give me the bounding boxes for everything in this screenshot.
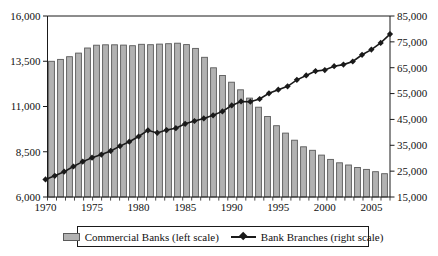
bar-2003 xyxy=(346,165,352,197)
bar-1997 xyxy=(292,140,298,197)
y-left-tick-label: 16,000 xyxy=(10,10,41,22)
y-left-tick-label: 13,500 xyxy=(10,55,41,67)
bar-1984 xyxy=(175,43,181,197)
y-right-tick-label: 35,000 xyxy=(397,139,428,151)
bar-2006 xyxy=(373,172,379,197)
bar-1989 xyxy=(220,76,226,198)
bar-1985 xyxy=(184,45,190,197)
bar-1974 xyxy=(85,48,91,197)
point-1995 xyxy=(275,87,281,93)
chart-figure: 1970197519801985199019952000200516,00013… xyxy=(0,0,438,256)
bar-1999 xyxy=(310,150,316,197)
bar-1994 xyxy=(265,117,271,198)
bar-2002 xyxy=(337,163,343,197)
x-tick-label-1985: 1985 xyxy=(174,201,197,213)
bar-2005 xyxy=(364,169,370,197)
legend-label-bank-branches: Bank Branches (right scale) xyxy=(261,231,383,243)
y-right-tick-label: 65,000 xyxy=(397,62,428,74)
bar-2004 xyxy=(355,168,361,198)
bar-2000 xyxy=(319,155,325,197)
bar-1996 xyxy=(283,133,289,197)
point-1998 xyxy=(303,72,309,78)
x-tick-label-2005: 2005 xyxy=(360,201,383,213)
y-right-tick-label: 45,000 xyxy=(397,113,428,125)
x-tick-label-1980: 1980 xyxy=(128,201,151,213)
bar-1980 xyxy=(139,44,145,197)
bar-1982 xyxy=(157,44,163,197)
bar-1977 xyxy=(112,45,118,197)
legend-item-commercial-banks: Commercial Banks (left scale) xyxy=(63,231,219,243)
bar-swatch-icon xyxy=(63,233,80,241)
bar-1972 xyxy=(67,57,73,197)
bar-1992 xyxy=(247,98,253,197)
bar-1971 xyxy=(58,59,64,197)
x-tick-label-1975: 1975 xyxy=(81,201,104,213)
legend-label-commercial-banks: Commercial Banks (left scale) xyxy=(85,231,219,243)
bar-1983 xyxy=(166,44,172,197)
legend-item-bank-branches: Bank Branches (right scale) xyxy=(231,231,383,243)
point-2001 xyxy=(331,63,337,69)
bar-2007 xyxy=(382,174,388,197)
y-left-tick-label: 6,000 xyxy=(16,191,41,203)
bar-1995 xyxy=(274,126,280,197)
x-tick-label-1995: 1995 xyxy=(267,201,290,213)
chart-canvas: 1970197519801985199019952000200516,00013… xyxy=(0,0,438,256)
bar-1979 xyxy=(130,46,136,197)
bar-1998 xyxy=(301,147,307,197)
bar-1975 xyxy=(94,45,100,197)
y-right-tick-label: 25,000 xyxy=(397,165,428,177)
bar-1978 xyxy=(121,45,127,197)
bar-1988 xyxy=(211,68,217,197)
y-right-tick-label: 75,000 xyxy=(397,36,428,48)
legend: Commercial Banks (left scale) Bank Branc… xyxy=(77,226,369,247)
bar-1981 xyxy=(148,45,154,197)
y-right-tick-label: 15,000 xyxy=(397,191,428,203)
bar-1987 xyxy=(202,57,208,197)
bar-1993 xyxy=(256,107,262,197)
bar-1991 xyxy=(238,90,244,197)
x-tick-label-1990: 1990 xyxy=(221,201,244,213)
bar-1973 xyxy=(76,53,82,197)
point-2000 xyxy=(322,67,328,73)
x-tick-label-2000: 2000 xyxy=(314,201,337,213)
y-left-tick-label: 11,000 xyxy=(11,100,41,112)
bar-1990 xyxy=(229,82,235,197)
bar-1976 xyxy=(103,45,109,197)
point-2002 xyxy=(340,62,346,68)
y-right-tick-label: 55,000 xyxy=(397,87,428,99)
line-diamond-icon xyxy=(231,232,256,241)
point-1999 xyxy=(312,68,318,74)
y-left-tick-label: 8,500 xyxy=(16,146,41,158)
y-right-tick-label: 85,000 xyxy=(397,10,428,22)
bar-2001 xyxy=(328,159,334,197)
